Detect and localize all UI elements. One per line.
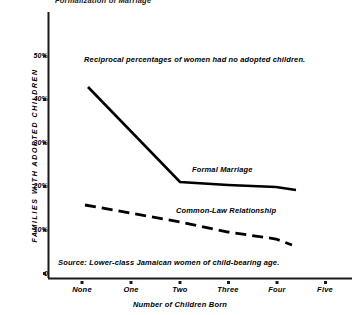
y-axis-ticks bbox=[43, 55, 46, 276]
chart-container: Formalization of Marriage FAMILIES WITH … bbox=[0, 0, 360, 315]
x-axis-ticks bbox=[81, 281, 328, 284]
plot-area bbox=[0, 0, 360, 315]
series-line-common-law bbox=[85, 205, 292, 245]
series-line-formal-marriage bbox=[88, 87, 296, 190]
